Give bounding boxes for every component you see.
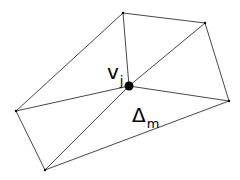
mesh-diagram xyxy=(0,0,240,180)
vertex-bottom xyxy=(44,169,46,171)
vertex-top xyxy=(122,12,124,14)
edges xyxy=(16,13,229,170)
edge-center-top-right xyxy=(129,23,205,86)
edge-center-bottom xyxy=(45,86,129,170)
edge-top-right-right xyxy=(205,23,229,101)
vertex-top-right xyxy=(204,22,206,24)
vertices xyxy=(15,12,230,171)
edge-center-right xyxy=(129,86,229,101)
triangle-label-subscript: m xyxy=(147,116,160,131)
edge-top-top-right xyxy=(123,13,205,23)
vertex-left xyxy=(15,110,17,112)
vertex-label-main: v xyxy=(107,60,119,84)
vertex-label: vj xyxy=(107,62,123,82)
edge-bottom-left xyxy=(16,111,45,170)
triangle-label-main: Δ xyxy=(132,103,146,127)
triangle-label: Δm xyxy=(132,105,159,125)
edge-center-left xyxy=(16,86,129,111)
vertex-right xyxy=(228,100,230,102)
edge-center-top xyxy=(123,13,129,86)
vertex-center xyxy=(125,82,134,91)
vertex-label-subscript: j xyxy=(120,73,124,88)
